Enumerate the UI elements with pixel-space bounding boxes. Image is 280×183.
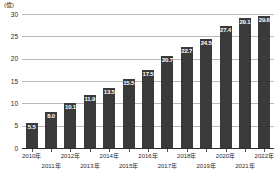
bar[interactable]: 10.1	[64, 103, 76, 148]
bar-value-label: 5.5	[28, 124, 36, 131]
x-axis-tick-label: 2019年	[196, 162, 215, 170]
y-axis-tick-label: 15	[2, 78, 18, 85]
bar-slot: 17.5	[138, 14, 157, 148]
bar-slot: 10.1	[61, 14, 80, 148]
x-axis-tick-label: 2012年	[61, 152, 80, 160]
x-axis-tick	[167, 149, 168, 152]
bar[interactable]: 22.7	[181, 47, 193, 148]
x-axis-tick-label: 2017年	[158, 162, 177, 170]
bar-value-label: 24.5	[201, 40, 212, 47]
bar-slot: 24.5	[196, 14, 215, 148]
bar-value-label: 8.0	[47, 113, 55, 120]
bar[interactable]: 11.9	[84, 95, 96, 148]
x-axis-tick-label: 2020年	[216, 152, 235, 160]
bar-value-label: 27.4	[220, 27, 231, 34]
bar-slot: 15.5	[119, 14, 138, 148]
x-axis-tick-label: 2010年	[22, 152, 41, 160]
bar-value-label: 20.7	[162, 57, 173, 64]
x-axis-tick	[245, 149, 246, 152]
y-axis-tick-label: 10	[2, 100, 18, 107]
bar-slot: 8.0	[41, 14, 60, 148]
bar-slot: 5.5	[22, 14, 41, 148]
y-axis-tick-label: 0	[2, 145, 18, 152]
x-axis-tick	[90, 149, 91, 152]
bar-slot: 27.4	[216, 14, 235, 148]
bar-value-label: 10.1	[65, 104, 76, 111]
bar-slot: 29.6	[255, 14, 274, 148]
bar[interactable]: 24.5	[200, 39, 212, 148]
bar-value-label: 29.6	[259, 17, 270, 24]
x-axis-tick-label: 2016年	[138, 152, 157, 160]
bar-slot: 11.9	[80, 14, 99, 148]
x-axis-tick-label: 2011年	[42, 162, 61, 170]
bar-slot: 13.5	[100, 14, 119, 148]
y-axis-unit-label: (億)	[4, 1, 14, 9]
plot-area: 5.58.010.111.913.515.517.520.722.724.527…	[22, 14, 274, 148]
x-axis-tick	[206, 149, 207, 152]
bar-value-label: 22.7	[181, 48, 192, 55]
bar[interactable]: 8.0	[45, 112, 57, 148]
x-axis-tick-label: 2015年	[119, 162, 138, 170]
bar-chart: (億) 5.58.010.111.913.515.517.520.722.724…	[0, 0, 280, 183]
x-axis-tick-label: 2014年	[100, 152, 119, 160]
bar[interactable]: 15.5	[123, 79, 135, 148]
bar[interactable]: 17.5	[142, 70, 154, 148]
bar[interactable]: 5.5	[26, 123, 38, 148]
bar-slot: 20.7	[158, 14, 177, 148]
bar-value-label: 17.5	[143, 71, 154, 78]
y-axis-tick-label: 20	[2, 55, 18, 62]
y-axis-tick-label: 5	[2, 122, 18, 129]
bar[interactable]: 29.6	[258, 16, 270, 148]
y-axis-tick-label: 25	[2, 33, 18, 40]
bar-slot: 29.1	[235, 14, 254, 148]
bar[interactable]: 20.7	[161, 56, 173, 148]
bar-value-label: 13.5	[104, 89, 115, 96]
y-axis-tick-label: 30	[2, 11, 18, 18]
bar-slot: 22.7	[177, 14, 196, 148]
x-axis-tick-label: 2018年	[177, 152, 196, 160]
bar[interactable]: 13.5	[103, 88, 115, 148]
bar-value-label: 29.1	[239, 19, 250, 26]
x-axis-tick-label: 2013年	[80, 162, 99, 170]
bar-value-label: 15.5	[123, 80, 134, 87]
x-axis-labels: 2010年2011年2012年2013年2014年2015年2016年2017年…	[22, 149, 274, 179]
x-axis-tick	[129, 149, 130, 152]
bar[interactable]: 29.1	[239, 18, 251, 148]
x-axis-tick	[51, 149, 52, 152]
x-axis-tick-label: 2021年	[235, 162, 254, 170]
bar[interactable]: 27.4	[220, 26, 232, 148]
bar-value-label: 11.9	[85, 96, 96, 103]
bar-series: 5.58.010.111.913.515.517.520.722.724.527…	[22, 14, 274, 148]
x-axis-tick-label: 2022年	[255, 152, 274, 160]
